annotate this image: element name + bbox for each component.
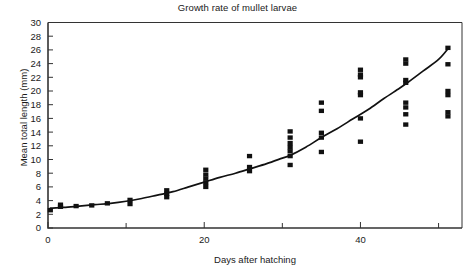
svg-text:30: 30: [30, 17, 41, 28]
svg-text:8: 8: [36, 168, 41, 179]
axis-ticks: [48, 23, 439, 229]
svg-text:20: 20: [30, 85, 41, 96]
svg-text:14: 14: [30, 127, 41, 138]
svg-text:6: 6: [36, 181, 41, 192]
svg-text:22: 22: [30, 72, 41, 83]
svg-text:16: 16: [30, 113, 41, 124]
chart-figure: Growth rate of mullet larvae Mean total …: [0, 0, 475, 273]
svg-text:2: 2: [36, 209, 41, 220]
axes: [48, 23, 462, 229]
svg-text:18: 18: [30, 99, 41, 110]
svg-text:20: 20: [199, 234, 210, 245]
fitted-growth-curve: [50, 48, 448, 208]
svg-text:0: 0: [45, 234, 50, 245]
svg-text:0: 0: [36, 222, 41, 233]
svg-text:24: 24: [30, 58, 41, 69]
svg-text:4: 4: [36, 195, 41, 206]
svg-text:10: 10: [30, 154, 41, 165]
svg-text:26: 26: [30, 44, 41, 55]
svg-text:12: 12: [30, 140, 41, 151]
svg-text:28: 28: [30, 31, 41, 42]
svg-text:40: 40: [355, 234, 366, 245]
axis-tick-labels: 02468101214161820222426283002040: [30, 17, 365, 245]
data-point-markers: [48, 46, 451, 213]
plot-area: 02468101214161820222426283002040: [0, 0, 475, 273]
